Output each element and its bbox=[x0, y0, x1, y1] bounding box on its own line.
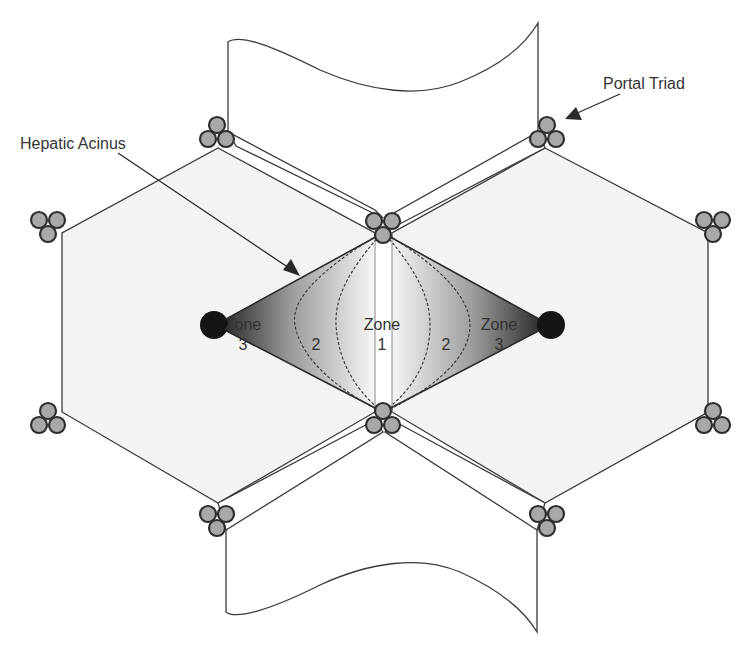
right-central-vein bbox=[537, 311, 565, 339]
portal-triad-top-right bbox=[530, 117, 564, 147]
right-zone3-word: Zone bbox=[481, 316, 518, 333]
left-zone3-num: 3 bbox=[239, 336, 248, 353]
portal-triad-bottom-left bbox=[200, 506, 234, 536]
bottom-partial-lobule bbox=[226, 530, 537, 632]
portal-triad-left-upper bbox=[31, 212, 65, 242]
center-zone1-word: Zone bbox=[364, 316, 401, 333]
portal-triad-left-lower bbox=[31, 403, 65, 433]
portal-triad-top-left bbox=[200, 117, 234, 147]
portal-triad-bottom-right bbox=[530, 506, 564, 536]
hepatic-acinus-label: Hepatic Acinus bbox=[20, 135, 126, 152]
portal-triad-arrow-line bbox=[575, 94, 620, 114]
center-zone1-num: 1 bbox=[378, 336, 387, 353]
top-partial-lobule bbox=[228, 23, 538, 132]
left-zone2-num: 2 bbox=[312, 336, 321, 353]
portal-triad-arrowhead-icon bbox=[565, 107, 582, 120]
hepatic-acinus-diagram: Zone 3 2 Zone 1 2 Zone 3 Hepatic Acinus … bbox=[0, 0, 747, 653]
right-zone2-num: 2 bbox=[442, 336, 451, 353]
left-zone3-word: Zone bbox=[225, 316, 262, 333]
portal-triad-label: Portal Triad bbox=[603, 75, 685, 92]
right-zone3-num: 3 bbox=[495, 336, 504, 353]
